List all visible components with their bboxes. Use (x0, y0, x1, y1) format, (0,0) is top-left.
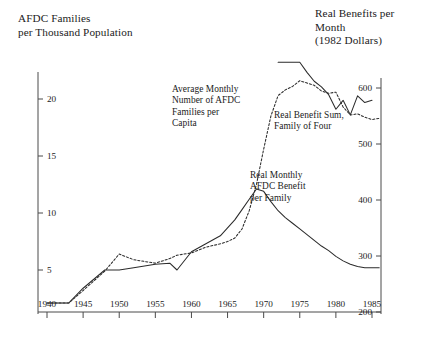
x-tick-1960: 1960 (182, 299, 201, 309)
chart-series-lines (47, 62, 379, 303)
right-tick-400: 400 (358, 195, 372, 205)
x-tick-1955: 1955 (146, 299, 165, 309)
right-tick-500: 500 (358, 139, 372, 149)
x-tick-1975: 1975 (291, 299, 310, 309)
x-tick-1965: 1965 (218, 299, 237, 309)
x-tick-1945: 1945 (74, 299, 93, 309)
chart-axes (38, 72, 381, 314)
x-tick-1940: 1940 (38, 299, 57, 309)
left-tick-20: 20 (47, 94, 57, 104)
chart-figure: AFDC Familiesper Thousand Population Rea… (0, 0, 432, 342)
x-tick-1970: 1970 (254, 299, 273, 309)
x-tick-1950: 1950 (110, 299, 129, 309)
x-tick-1985: 1985 (363, 299, 382, 309)
x-tick-1980: 1980 (327, 299, 346, 309)
left-tick-15: 15 (47, 151, 57, 161)
left-tick-10: 10 (47, 208, 57, 218)
series-line-1 (47, 189, 379, 303)
chart-tick-labels: 5101520200300400500600194019451950195519… (38, 83, 382, 317)
chart-plot-area: 5101520200300400500600194019451950195519… (0, 0, 432, 342)
series-line-0 (47, 81, 379, 303)
left-tick-5: 5 (47, 265, 52, 275)
right-tick-600: 600 (358, 83, 372, 93)
right-tick-300: 300 (358, 251, 372, 261)
